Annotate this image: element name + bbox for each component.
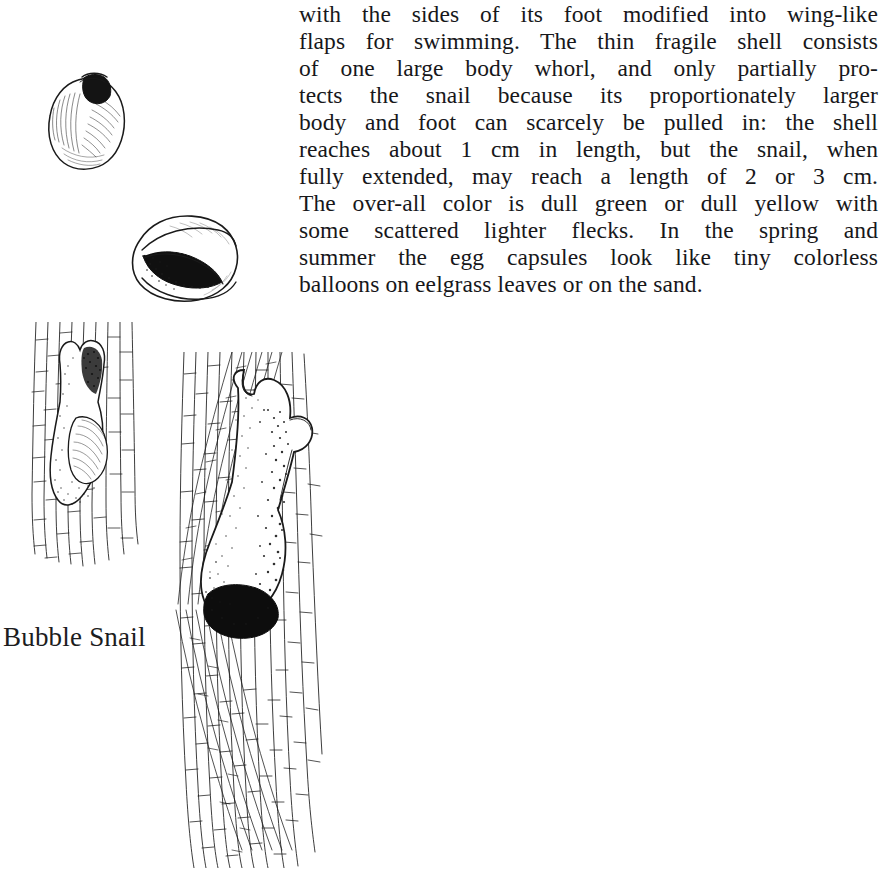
text-line: with the sides of its foot modified into… — [299, 1, 878, 28]
text-line: of one large body whorl, and only partia… — [299, 55, 878, 82]
shell-dorsal-drawing — [40, 68, 140, 173]
text-line: some scattered lighter flecks. In the sp… — [299, 217, 878, 244]
snail-on-blades-large-drawing — [160, 352, 330, 868]
text-line: fully extended, may reach a length of 2 … — [299, 163, 878, 190]
text-line: balloons on eelgrass leaves or on the sa… — [299, 271, 878, 298]
scanned-book-page: with the sides of its foot modified into… — [0, 0, 887, 869]
snail-on-blade-small-drawing — [24, 322, 154, 580]
bubble-snail-shell-dorsal-illustration — [40, 68, 140, 173]
text-line: flaps for swimming. The thin fragile she… — [299, 28, 878, 55]
figure-caption: Bubble Snail — [3, 622, 146, 652]
shell-aperture-drawing — [126, 206, 248, 310]
text-line: tects the snail because its proportionat… — [299, 82, 878, 109]
text-line: summer the egg capsules look like tiny c… — [299, 244, 878, 271]
bubble-snail-on-eelgrass-large-illustration — [160, 352, 330, 868]
bubble-snail-on-eelgrass-small-illustration — [24, 322, 154, 580]
text-line: reaches about 1 cm in length, but the sn… — [299, 136, 878, 163]
text-line: The over-all color is dull green or dull… — [299, 190, 878, 217]
bubble-snail-shell-aperture-illustration — [126, 206, 248, 310]
text-line: body and foot can scarcely be pulled in:… — [299, 109, 878, 136]
body-text-column: with the sides of its foot modified into… — [299, 1, 878, 298]
